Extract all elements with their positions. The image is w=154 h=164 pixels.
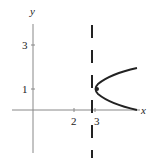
- parabola-curve: [96, 68, 138, 110]
- y-axis-label: y: [29, 5, 35, 17]
- y-tick-label-3: 3: [22, 39, 28, 51]
- vertex-point: [95, 87, 99, 91]
- y-tick-label-1: 1: [22, 83, 28, 95]
- x-tick-label-3: 3: [94, 115, 100, 127]
- x-tick-label-2: 2: [71, 115, 77, 127]
- x-axis-label: x: [140, 104, 146, 116]
- graph: y x 3 1 2 3: [0, 0, 154, 164]
